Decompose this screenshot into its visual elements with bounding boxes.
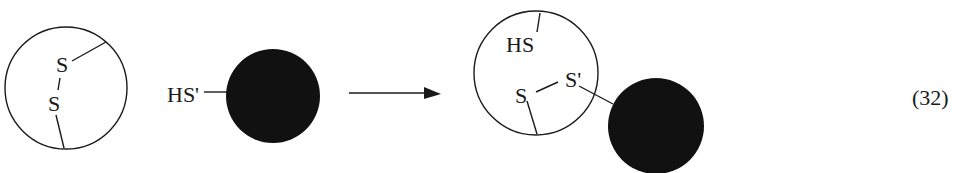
arrow-head-icon xyxy=(424,87,441,99)
filled-circle-1 xyxy=(226,49,320,143)
sulfur-label-bottom: S xyxy=(48,91,60,116)
reaction-arrow xyxy=(349,87,441,99)
bond-line-lower xyxy=(527,101,537,134)
bond-line-top xyxy=(72,42,106,61)
sulfur-label-product: S xyxy=(515,83,527,108)
thiol-bond-line xyxy=(537,13,540,32)
protein-circle-1 xyxy=(5,27,127,149)
sulfur-prime-label-product: S' xyxy=(565,67,581,92)
product-complex: HS S S' xyxy=(474,11,704,173)
equation-number: (32) xyxy=(912,85,949,110)
filled-circle-2 xyxy=(608,78,704,173)
sulfur-label-top: S xyxy=(56,52,68,77)
bond-line-bottom xyxy=(56,115,64,148)
disulfide-bond xyxy=(58,78,60,90)
reactant-thiol: HS' xyxy=(167,49,320,143)
reactant-protein: S S xyxy=(5,27,127,149)
thiol-label-product: HS xyxy=(506,32,534,57)
mixed-disulfide-bond xyxy=(536,82,558,92)
thiol-label: HS' xyxy=(167,82,199,107)
reaction-diagram: S S HS' HS S S' (32) xyxy=(0,0,963,173)
